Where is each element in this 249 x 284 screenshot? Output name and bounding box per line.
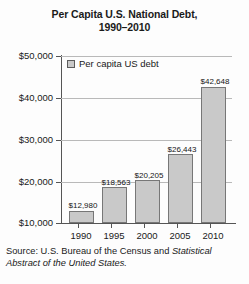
- legend-swatch-per-capita-us-debt: [67, 60, 75, 68]
- chart-legend: Per capita US debt: [67, 59, 159, 69]
- x-tick-mark-2010: [210, 224, 211, 228]
- bar-value-label-2010: $42,648: [191, 77, 239, 86]
- y-tick-label-30000: $30,000: [19, 135, 53, 145]
- bar-value-label-1990: $12,980: [59, 201, 107, 210]
- bar-2010[interactable]: [201, 87, 226, 223]
- chart-title: Per Capita U.S. National Debt, 1990–2010: [0, 8, 249, 34]
- bar-1990[interactable]: [69, 211, 94, 223]
- chart-title-line-2: 1990–2010: [0, 21, 249, 34]
- bar-chart-figure: Per Capita U.S. National Debt, 1990–2010…: [0, 0, 249, 284]
- chart-title-line-1: Per Capita U.S. National Debt,: [0, 8, 249, 21]
- source-note: Source: U.S. Bureau of the Census and St…: [6, 245, 246, 269]
- bar-value-label-2005: $26,443: [158, 145, 206, 154]
- y-tick-label-10000: $10,000: [19, 218, 53, 228]
- x-tick-mark-2005: [177, 224, 178, 228]
- x-tick-mark-2000: [144, 224, 145, 228]
- x-tick-mark-1995: [111, 224, 112, 228]
- x-tick-label-2010: 2010: [190, 230, 236, 241]
- y-tick-label-20000: $20,000: [19, 177, 53, 187]
- gridline-50000: [61, 56, 232, 57]
- source-note-prefix: Source: U.S. Bureau of the Census and: [6, 246, 172, 256]
- bar-2005[interactable]: [168, 154, 193, 223]
- bar-value-label-2000: $20,205: [125, 171, 173, 180]
- y-tick-label-50000: $50,000: [19, 51, 53, 61]
- legend-label-per-capita-us-debt: Per capita US debt: [79, 59, 159, 69]
- x-tick-mark-1990: [78, 224, 79, 228]
- y-tick-label-40000: $40,000: [19, 93, 53, 103]
